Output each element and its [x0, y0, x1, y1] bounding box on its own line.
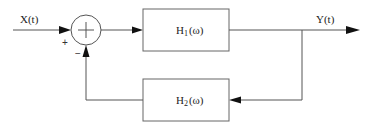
- output-arrow-icon: [346, 26, 360, 34]
- h1-label: H1(ω): [176, 24, 204, 38]
- plus-sign: +: [62, 37, 68, 48]
- h1-input-arrow-icon: [132, 27, 143, 34]
- output-label: Y(t): [316, 13, 335, 26]
- feedback-arrow-icon: [83, 45, 90, 57]
- summing-junction: [71, 15, 101, 45]
- h2-label: H2(ω): [176, 94, 204, 108]
- block-diagram: X(t) + − H1(ω) Y(t) H2(ω): [0, 0, 370, 131]
- input-arrow-icon: [59, 26, 71, 34]
- input-label: X(t): [20, 13, 39, 26]
- feedback-block-h2: H2(ω): [143, 79, 229, 121]
- minus-sign: −: [75, 48, 81, 59]
- h2-input-arrow-icon: [229, 97, 241, 104]
- forward-block-h1: H1(ω): [143, 9, 229, 51]
